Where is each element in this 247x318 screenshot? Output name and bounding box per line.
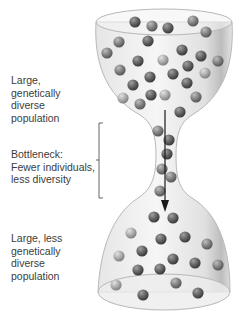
bead-bottom [167, 253, 178, 264]
bead-bottom [155, 233, 166, 244]
bead-top [174, 106, 185, 117]
bead-top [144, 71, 155, 82]
bead-bottom [189, 257, 200, 268]
bead-neck [161, 148, 172, 159]
bead-top [176, 44, 187, 55]
bead-top [159, 89, 170, 100]
bead-bottom [170, 277, 181, 288]
bead-top [199, 67, 210, 78]
label-top-population: Large, genetically diverse population [11, 74, 61, 124]
bead-top [114, 64, 125, 75]
bead-top [132, 55, 143, 66]
bead-top [127, 79, 138, 90]
bead-top [187, 15, 198, 26]
bead-bottom [167, 212, 178, 223]
bead-bottom [179, 231, 190, 242]
bead-bottom [201, 238, 212, 249]
bead-top [182, 60, 193, 71]
label-bottom-population: Large, less genetically diverse populati… [11, 232, 62, 282]
bead-bottom [110, 279, 121, 290]
bead-bottom [136, 245, 147, 256]
bead-bottom [125, 227, 136, 238]
bead-top [162, 22, 173, 33]
bead-neck [156, 163, 167, 174]
bead-bottom [148, 211, 159, 222]
bead-neck [165, 171, 176, 182]
bead-top [145, 89, 156, 100]
bead-bottom [132, 264, 143, 275]
bead-top [101, 47, 112, 58]
bead-top [190, 91, 201, 102]
bead-top [142, 35, 153, 46]
bead-neck [154, 185, 165, 196]
bead-bottom [154, 263, 165, 274]
bead-top [117, 92, 128, 103]
bead-bottom [212, 259, 223, 270]
bead-bottom [113, 250, 124, 261]
bead-top [200, 26, 211, 37]
bead-top [167, 68, 178, 79]
bead-top [113, 36, 124, 47]
bead-bottom [192, 287, 203, 298]
bottleneck-bracket [96, 123, 103, 198]
label-bottleneck: Bottleneck: Fewer individuals, less dive… [11, 148, 95, 186]
bead-top [195, 50, 206, 61]
bead-bottom [137, 289, 148, 300]
bead-top [129, 16, 140, 27]
bead-top [157, 54, 168, 65]
bead-neck [152, 125, 163, 136]
bead-top [212, 55, 223, 66]
bottom-base [98, 274, 230, 310]
bead-top [146, 20, 157, 31]
bead-top [134, 98, 145, 109]
bead-top [181, 77, 192, 88]
